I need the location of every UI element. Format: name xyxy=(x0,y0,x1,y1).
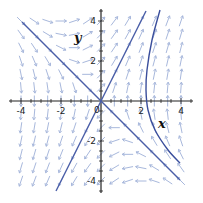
field-arrow xyxy=(166,56,169,67)
y-tick-label: 4 xyxy=(90,16,96,26)
field-arrow xyxy=(46,69,50,79)
field-arrow xyxy=(33,82,36,93)
field-arrow xyxy=(20,82,23,93)
x-tick-label: 2 xyxy=(138,106,144,116)
field-arrow xyxy=(47,82,50,93)
arrow-shaft xyxy=(84,163,90,172)
field-arrow xyxy=(85,150,91,159)
field-arrow xyxy=(152,136,158,145)
field-arrow xyxy=(82,73,93,76)
arrow-shaft xyxy=(111,43,117,52)
field-arrow xyxy=(59,122,63,133)
field-arrow xyxy=(122,139,132,143)
field-arrow xyxy=(19,56,23,66)
arrow-shaft xyxy=(165,150,171,159)
origin-label: 0 xyxy=(94,105,100,115)
field-arrow xyxy=(43,32,52,38)
field-arrow xyxy=(19,149,23,160)
field-arrow xyxy=(136,179,147,182)
y-tick-label: 2 xyxy=(90,56,96,66)
field-arrow xyxy=(139,56,143,66)
arrow-shaft xyxy=(83,32,92,38)
field-arrow xyxy=(109,139,119,143)
field-arrow xyxy=(153,56,157,67)
field-arrow xyxy=(45,56,51,65)
field-arrow xyxy=(178,149,183,159)
field-arrow xyxy=(19,162,23,173)
field-arrow xyxy=(166,109,169,120)
field-arrow xyxy=(179,122,182,133)
field-arrow xyxy=(19,43,24,53)
x-tick-label: -2 xyxy=(57,106,66,116)
field-arrow xyxy=(125,30,130,40)
field-arrow xyxy=(125,16,131,25)
field-arrow xyxy=(126,69,130,79)
arrow-shaft xyxy=(178,163,184,172)
field-arrow xyxy=(109,126,120,129)
field-arrow xyxy=(19,176,23,186)
field-arrow xyxy=(85,109,89,119)
field-arrow xyxy=(45,163,49,173)
field-arrow xyxy=(125,109,129,119)
y-axis-label: y xyxy=(73,30,83,45)
field-arrow xyxy=(59,69,64,79)
field-arrow xyxy=(179,29,183,40)
field-arrow xyxy=(72,176,78,185)
curve-trajectory xyxy=(146,10,180,163)
field-arrow xyxy=(69,19,79,23)
field-arrow xyxy=(152,109,155,120)
arrow-shaft xyxy=(111,30,117,39)
field-arrow xyxy=(59,136,63,146)
x-tick-label: 4 xyxy=(178,106,184,116)
field-arrow xyxy=(163,178,172,184)
field-arrow xyxy=(73,82,77,92)
arrow-shaft xyxy=(45,56,51,65)
arrow-shaft xyxy=(163,178,172,184)
field-arrow xyxy=(32,122,35,133)
field-arrow xyxy=(18,30,24,39)
field-arrow xyxy=(32,176,36,186)
field-arrow xyxy=(150,165,159,171)
field-arrow xyxy=(180,56,183,67)
field-arrow xyxy=(111,30,117,39)
field-arrow xyxy=(46,122,49,133)
field-arrow xyxy=(33,109,36,120)
field-arrow xyxy=(178,163,184,172)
arrow-shaft xyxy=(125,16,131,25)
field-arrow xyxy=(139,43,144,53)
x-axis-label: x xyxy=(157,116,166,131)
field-arrow xyxy=(72,163,77,173)
field-arrow xyxy=(166,16,170,26)
field-arrow xyxy=(111,17,118,26)
field-arrow xyxy=(140,82,143,93)
field-arrow xyxy=(83,45,93,50)
field-arrow xyxy=(111,43,117,52)
field-arrow xyxy=(56,19,67,22)
field-arrow xyxy=(32,136,35,147)
field-arrow xyxy=(153,82,156,93)
field-arrow xyxy=(167,69,170,80)
field-arrow xyxy=(112,56,118,65)
arrow-shaft xyxy=(72,163,77,173)
field-arrow xyxy=(69,46,80,49)
field-arrow xyxy=(122,153,133,156)
arrow-shaft xyxy=(112,56,118,65)
field-arrow xyxy=(149,179,159,183)
arrow-shaft xyxy=(110,165,119,171)
field-arrow xyxy=(126,56,131,66)
field-arrow xyxy=(19,136,22,147)
field-arrow xyxy=(56,45,66,50)
field-arrow xyxy=(136,152,146,157)
arrow-shaft xyxy=(125,30,130,40)
arrow-shaft xyxy=(31,43,37,52)
field-arrow xyxy=(165,136,170,146)
y-tick-label: -2 xyxy=(87,136,96,146)
field-arrow xyxy=(32,149,36,160)
field-arrow xyxy=(180,42,184,53)
field-arrow xyxy=(179,16,183,26)
y-tick-label: -4 xyxy=(87,176,96,186)
field-arrow xyxy=(58,149,63,159)
field-arrow xyxy=(166,42,170,53)
field-arrow xyxy=(46,109,49,120)
arrow-shaft xyxy=(72,176,78,185)
